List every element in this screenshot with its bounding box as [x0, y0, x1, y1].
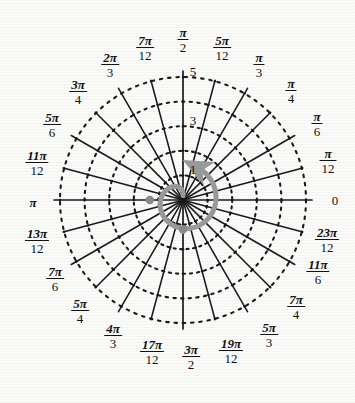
fraction-denominator: 12 [25, 241, 49, 255]
fraction-numerator: 11π [306, 258, 329, 272]
fraction-denominator: 6 [306, 272, 329, 286]
fraction-numerator: π [253, 51, 264, 65]
fraction-numerator: 13π [25, 227, 49, 241]
angle-label-a2: π6 [311, 110, 322, 138]
angle-label-fraction: π4 [285, 77, 296, 105]
fraction-numerator: π [285, 77, 296, 91]
angle-label-fraction: 17π12 [140, 338, 164, 366]
fraction-numerator: 3π [182, 343, 200, 357]
angle-label-a11: 11π12 [25, 149, 48, 177]
fraction-numerator: 5π [260, 321, 278, 335]
angle-label-a17: 17π12 [140, 338, 164, 366]
fraction-denominator: 2 [177, 40, 188, 54]
fraction-numerator: 5π [43, 111, 61, 125]
fraction-denominator: 3 [101, 65, 119, 79]
angle-label-a23: 23π12 [315, 226, 339, 254]
angle-label-a22: 11π6 [306, 258, 329, 286]
angle-label-a10: 5π6 [43, 111, 61, 139]
fraction-denominator: 4 [285, 91, 296, 105]
fraction-numerator: 17π [140, 338, 164, 352]
angle-label-a3: π4 [285, 77, 296, 105]
fraction-denominator: 12 [140, 352, 164, 366]
fraction-numerator: 5π [71, 297, 89, 311]
fraction-denominator: 12 [219, 351, 243, 365]
fraction-numerator: 7π [287, 293, 305, 307]
fraction-denominator: 4 [69, 92, 87, 106]
angle-label-fraction: 11π12 [25, 149, 48, 177]
fraction-denominator: 3 [260, 335, 278, 349]
angle-label-fraction: 4π3 [104, 322, 122, 350]
principal-axes [54, 71, 312, 329]
fraction-numerator: 11π [25, 149, 48, 163]
fraction-numerator: π [177, 26, 188, 40]
fraction-denominator: 3 [253, 65, 264, 79]
angle-label-a5: 5π12 [213, 34, 231, 62]
angle-label-fraction: π6 [311, 110, 322, 138]
fraction-numerator: 7π [136, 34, 154, 48]
angle-label-fraction: 5π6 [43, 111, 61, 139]
angle-label-fraction: π3 [253, 51, 264, 79]
angle-label-fraction: 7π4 [287, 293, 305, 321]
angle-label-fraction: 23π12 [315, 226, 339, 254]
fraction-numerator: 5π [213, 34, 231, 48]
angle-label-fraction: 5π12 [213, 34, 231, 62]
angle-label-a13: 13π12 [25, 227, 49, 255]
angle-label-a15: 5π4 [71, 297, 89, 325]
fraction-numerator: 3π [69, 78, 87, 92]
fraction-numerator: 7π [46, 265, 64, 279]
angle-label-a14: 7π6 [46, 265, 64, 293]
fraction-denominator: 12 [320, 161, 337, 175]
fraction-denominator: 12 [25, 163, 48, 177]
angle-label-a20: 5π3 [260, 321, 278, 349]
angle-label-text: 0 [332, 194, 339, 207]
angle-label-a1: π12 [320, 147, 337, 175]
radial-tick-label-1: 1 [190, 162, 197, 178]
angle-label-fraction: 7π12 [136, 34, 154, 62]
radial-tick-label-3: 3 [190, 113, 197, 129]
fraction-denominator: 4 [71, 311, 89, 325]
angle-label-a7: 7π12 [136, 34, 154, 62]
angle-label-fraction: 13π12 [25, 227, 49, 255]
fraction-denominator: 6 [311, 124, 322, 138]
angle-label-a21: 7π4 [287, 293, 305, 321]
angle-label-a19: 19π12 [219, 337, 243, 365]
angle-label-a9: 3π4 [69, 78, 87, 106]
angle-label-a4: π3 [253, 51, 264, 79]
angle-label-a8: 2π3 [101, 51, 119, 79]
angle-label-fraction: 5π3 [260, 321, 278, 349]
angle-label-a0: 0 [332, 194, 339, 207]
angle-label-a12: π [29, 196, 36, 209]
fraction-numerator: 19π [219, 337, 243, 351]
angle-label-fraction: 5π4 [71, 297, 89, 325]
fraction-numerator: 2π [101, 51, 119, 65]
angle-label-fraction: 2π3 [101, 51, 119, 79]
angle-label-fraction: 19π12 [219, 337, 243, 365]
fraction-numerator: 4π [104, 322, 122, 336]
angle-label-fraction: π12 [320, 147, 337, 175]
fraction-denominator: 3 [104, 336, 122, 350]
fraction-denominator: 6 [43, 125, 61, 139]
angle-label-text: π [29, 196, 36, 209]
fraction-denominator: 4 [287, 307, 305, 321]
fraction-numerator: π [320, 147, 337, 161]
fraction-numerator: 23π [315, 226, 339, 240]
fraction-denominator: 2 [182, 357, 200, 371]
fraction-numerator: π [311, 110, 322, 124]
fraction-denominator: 12 [213, 48, 231, 62]
fraction-denominator: 12 [136, 48, 154, 62]
angle-label-fraction: π2 [177, 26, 188, 54]
polar-grid-figure [0, 0, 355, 403]
angle-label-fraction: 3π2 [182, 343, 200, 371]
angle-label-a6: π2 [177, 26, 188, 54]
radial-tick-label-5: 5 [190, 64, 197, 80]
angle-label-a18: 3π2 [182, 343, 200, 371]
fraction-denominator: 12 [315, 240, 339, 254]
angle-label-a16: 4π3 [104, 322, 122, 350]
angle-label-fraction: 3π4 [69, 78, 87, 106]
angle-label-fraction: 7π6 [46, 265, 64, 293]
angle-label-fraction: 11π6 [306, 258, 329, 286]
fraction-denominator: 6 [46, 279, 64, 293]
